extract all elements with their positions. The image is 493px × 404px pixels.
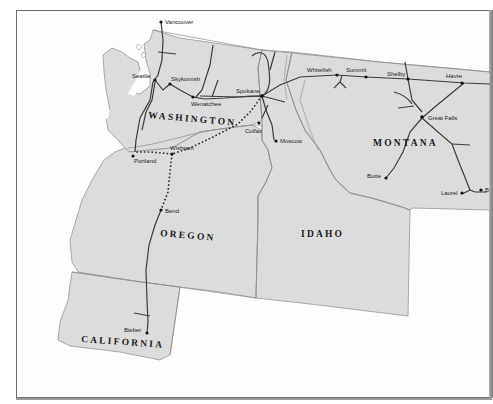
city-laurel-label: Laurel [441,190,458,196]
city-bend-label: Bend [165,208,179,214]
city-colfax-dot[interactable] [257,121,260,124]
city-shelby-dot[interactable] [406,77,409,80]
city-wishram-dot[interactable] [170,152,173,155]
land [58,30,490,360]
city-great-falls-dot[interactable] [420,115,424,119]
city-butte-label: Butte [367,173,382,179]
city-bieber-dot[interactable] [145,331,148,334]
city-skykomish-label: Skykomish [171,76,200,82]
city-bend-dot[interactable] [159,208,162,211]
city-havre-label: Havre [446,73,463,79]
city-bieber-label: Bieber [124,327,141,333]
city-billings-dot[interactable] [479,188,482,191]
city-wishram-label: Wishram [170,145,194,151]
city-vancouver-dot[interactable] [159,20,162,23]
city-shelby-label: Shelby [387,71,405,77]
city-seattle-label: Seattle [132,73,151,79]
city-spokane-label: Spokane [236,88,260,94]
city-moscow-dot[interactable] [274,139,277,142]
city-summit-label: Summit [346,67,367,73]
city-seattle-dot[interactable] [153,78,156,81]
city-laurel-dot[interactable] [460,191,463,194]
city-spokane-dot[interactable] [260,94,264,98]
city-skykomish-dot[interactable] [168,82,171,85]
city-whitefish-dot[interactable] [335,73,338,76]
state-label-idaho: IDAHO [301,229,344,239]
city-wenatchee-label: Wenatchee [191,101,222,107]
city-vancouver-label: Vancouver [165,19,193,25]
city-havre-dot[interactable] [460,81,463,84]
state-label-montana: MONTANA [373,138,438,148]
city-wenatchee-dot[interactable] [191,95,194,98]
city-summit-dot[interactable] [364,75,367,78]
city-moscow-label: Moscow [280,138,303,144]
city-butte-dot[interactable] [384,176,387,179]
city-great-falls-label: Great Falls [428,115,457,121]
city-colfax-label: Colfax [245,128,262,134]
city-portland-label: Portland [134,158,156,164]
city-billings-label: B [485,187,489,193]
city-whitefish-label: Whitefish [307,67,332,73]
rail-map: Vancouver Seattle Skykomish Wenatchee Sp… [0,0,493,404]
